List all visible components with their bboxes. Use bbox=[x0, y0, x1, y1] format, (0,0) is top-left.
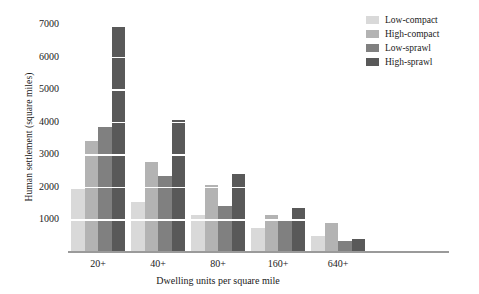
gridlines-layer bbox=[68, 16, 368, 252]
plot-area bbox=[68, 16, 368, 252]
gridline bbox=[68, 122, 368, 124]
y-tick-label: 3000 bbox=[39, 149, 59, 159]
legend-swatch-icon bbox=[366, 16, 379, 24]
legend-label: High-compact bbox=[385, 29, 439, 39]
y-tick-label: 4000 bbox=[39, 117, 59, 127]
gridline bbox=[68, 24, 368, 26]
x-axis-title: Dwelling units per square mile bbox=[68, 275, 368, 286]
y-axis-ticks: 1000200030004000500060007000 bbox=[0, 16, 64, 252]
legend-item: High-sprawl bbox=[366, 55, 478, 69]
legend-swatch-icon bbox=[366, 44, 379, 52]
legend-label: Low-sprawl bbox=[385, 43, 431, 53]
legend-item: Low-sprawl bbox=[366, 41, 478, 55]
x-tick-label: 80+ bbox=[188, 258, 248, 269]
x-axis-line bbox=[68, 251, 449, 253]
legend-label: Low-compact bbox=[385, 15, 438, 25]
gridline bbox=[68, 89, 368, 91]
chart-figure: Human settlement (square miles) 10002000… bbox=[0, 0, 479, 294]
y-tick-label: 2000 bbox=[39, 182, 59, 192]
x-tick-label: 40+ bbox=[128, 258, 188, 269]
legend: Low-compactHigh-compactLow-sprawlHigh-sp… bbox=[366, 13, 478, 69]
x-tick-label: 640+ bbox=[308, 258, 368, 269]
gridline bbox=[68, 154, 368, 156]
legend-swatch-icon bbox=[366, 58, 379, 66]
legend-item: Low-compact bbox=[366, 13, 478, 27]
legend-item: High-compact bbox=[366, 27, 478, 41]
gridline bbox=[68, 187, 368, 189]
gridline bbox=[68, 219, 368, 221]
gridline bbox=[68, 57, 368, 59]
y-tick-label: 7000 bbox=[39, 19, 59, 29]
legend-label: High-sprawl bbox=[385, 57, 433, 67]
y-tick-label: 6000 bbox=[39, 52, 59, 62]
x-tick-label: 20+ bbox=[68, 258, 128, 269]
y-tick-label: 1000 bbox=[39, 214, 59, 224]
legend-swatch-icon bbox=[366, 30, 379, 38]
x-tick-label: 160+ bbox=[248, 258, 308, 269]
y-tick-label: 5000 bbox=[39, 84, 59, 94]
